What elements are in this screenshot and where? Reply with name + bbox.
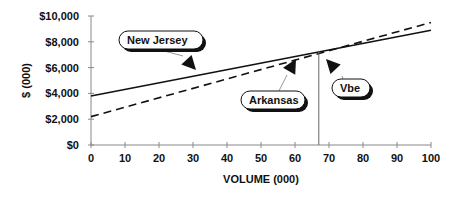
callout-label: Arkansas [249, 94, 299, 106]
y-axis-label: $ (000) [20, 63, 32, 98]
x-tick-label: 80 [357, 152, 369, 164]
x-tick-label: 70 [323, 152, 335, 164]
x-tick-label: 20 [153, 152, 165, 164]
x-axis-label: VOLUME (000) [223, 173, 299, 185]
cost-volume-chart: $0$2,000$4,000$6,000$8,000$10,0000102030… [0, 0, 461, 197]
y-tick-label: $2,000 [45, 113, 79, 125]
x-tick-label: 10 [119, 152, 131, 164]
x-tick-label: 60 [289, 152, 301, 164]
y-tick-label: $4,000 [45, 87, 79, 99]
y-tick-label: $0 [67, 139, 79, 151]
x-tick-label: 40 [221, 152, 233, 164]
y-tick-label: $6,000 [45, 62, 79, 74]
callout-label: New Jersey [127, 34, 188, 46]
y-tick-label: $10,000 [39, 10, 79, 22]
x-tick-label: 30 [187, 152, 199, 164]
callout-arrow-icon [326, 59, 341, 74]
callout-arrow-icon [181, 55, 196, 70]
x-tick-label: 90 [391, 152, 403, 164]
x-tick-label: 100 [422, 152, 440, 164]
x-tick-label: 0 [88, 152, 94, 164]
y-tick-label: $8,000 [45, 36, 79, 48]
callout-arrow-icon [283, 59, 296, 75]
x-tick-label: 50 [255, 152, 267, 164]
callout-label: Vbe [340, 82, 360, 94]
